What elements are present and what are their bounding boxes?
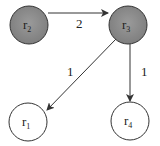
- node-r4: r4: [111, 102, 149, 140]
- graph-diagram: 2 1 1 r2 r3 r1 r4: [0, 0, 160, 146]
- edge-r3-r4: 1: [130, 44, 148, 101]
- edge-weight-r3-r4: 1: [141, 64, 148, 79]
- node-r2: r2: [10, 6, 48, 44]
- node-r1: r1: [9, 103, 47, 141]
- node-r3-subscript: 3: [126, 25, 130, 34]
- edge-r3-r1: 1: [47, 39, 116, 110]
- node-r3: r3: [109, 6, 147, 44]
- edge-weight-r3-r1: 1: [67, 64, 74, 79]
- node-r4-subscript: 4: [128, 121, 132, 130]
- edge-weight-r2-r3: 2: [76, 16, 83, 31]
- edge-r2-r3: 2: [48, 13, 108, 31]
- node-r2-subscript: 2: [27, 25, 31, 34]
- node-r1-subscript: 1: [26, 122, 30, 131]
